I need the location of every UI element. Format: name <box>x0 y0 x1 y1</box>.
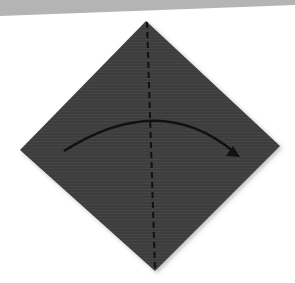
background-band <box>0 0 295 16</box>
origami-diagram <box>0 0 295 283</box>
